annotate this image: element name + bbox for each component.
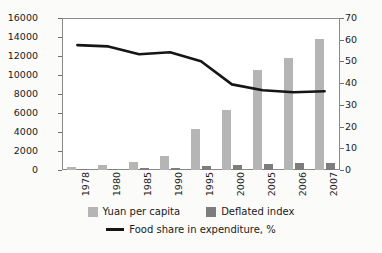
- x-axis-tick-label: 1985: [143, 172, 153, 196]
- legend-label-food-share: Food share in expenditure, %: [129, 224, 275, 235]
- chart-legend: Yuan per capita Deflated index Food shar…: [0, 206, 382, 242]
- legend-row-bars: Yuan per capita Deflated index: [0, 206, 382, 217]
- legend-swatch-icon-yuan-per-capita: [88, 207, 98, 217]
- legend-line-icon-food-share: [106, 228, 124, 231]
- chart-container: 0200040006000800010000120001400016000 01…: [0, 0, 382, 253]
- x-axis-tick-label: 1990: [174, 172, 184, 196]
- x-axis-labels: 197819801985199019952000200520062007: [62, 172, 340, 208]
- legend-item-food-share: Food share in expenditure, %: [106, 224, 275, 235]
- legend-item-deflated-index: Deflated index: [206, 206, 294, 217]
- x-axis-tick-label: 2005: [267, 172, 277, 196]
- x-axis-tick-label: 2007: [329, 172, 339, 196]
- legend-item-yuan-per-capita: Yuan per capita: [88, 206, 181, 217]
- legend-swatch-icon-deflated-index: [206, 207, 216, 217]
- x-axis-tick-label: 2000: [236, 172, 246, 196]
- x-axis-tick-label: 2006: [298, 172, 308, 196]
- legend-label-deflated-index: Deflated index: [221, 206, 294, 217]
- legend-row-line: Food share in expenditure, %: [0, 224, 382, 235]
- line-food-share-in-expenditure: [77, 45, 324, 92]
- x-axis-tick-label: 1995: [205, 172, 215, 196]
- x-axis-tick-label: 1980: [112, 172, 122, 196]
- legend-label-yuan-per-capita: Yuan per capita: [103, 206, 181, 217]
- x-axis-tick-label: 1978: [81, 172, 91, 196]
